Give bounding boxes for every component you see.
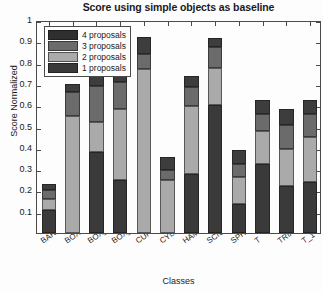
bar-stack [255, 21, 270, 233]
bar-segment [137, 37, 152, 54]
y-tick-label: 0.3 [4, 164, 32, 174]
legend-item[interactable]: 3 proposals [48, 41, 126, 51]
bar-segment [42, 199, 57, 210]
chart-legend: 4 proposals3 proposals2 proposals1 propo… [44, 26, 131, 77]
y-tick-mark [37, 86, 41, 87]
bar-segment [208, 47, 223, 68]
bar-segment [184, 76, 199, 87]
bar-segment [303, 100, 318, 114]
legend-swatch-icon [48, 30, 78, 40]
bar-segment [42, 210, 57, 233]
bar-segment [137, 54, 152, 69]
bar-stack [184, 21, 199, 233]
legend-item[interactable]: 2 proposals [48, 52, 126, 62]
y-tick-label: 0.7 [4, 79, 32, 89]
legend-swatch-icon [48, 63, 78, 73]
legend-label: 4 proposals [82, 30, 126, 40]
bar-segment [279, 186, 294, 233]
bar-segment [208, 105, 223, 233]
legend-label: 1 proposals [82, 63, 126, 73]
y-tick-mark [37, 65, 41, 66]
bar-stack [208, 21, 223, 233]
bar-stack [303, 21, 318, 233]
y-tick-label: 0.6 [4, 100, 32, 110]
bar-segment [232, 164, 247, 177]
bar-segment [279, 109, 294, 125]
plot-area: 4 proposals3 proposals2 proposals1 propo… [36, 21, 321, 234]
y-tick-label: 0.4 [4, 143, 32, 153]
bar-segment [89, 86, 104, 122]
legend-item[interactable]: 1 proposals [48, 63, 126, 73]
y-tick-mark [37, 214, 41, 215]
bar-segment [232, 204, 247, 233]
y-tick-label: 1 [4, 15, 32, 25]
bar-segment [65, 116, 80, 233]
y-tick-label: 0.2 [4, 185, 32, 195]
legend-swatch-icon [48, 52, 78, 62]
y-tick-mark [37, 129, 41, 130]
bar-segment [279, 125, 294, 148]
legend-label: 2 proposals [82, 52, 126, 62]
legend-swatch-icon [48, 41, 78, 51]
bar-segment [208, 38, 223, 47]
bar-segment [160, 170, 175, 180]
bar-segment [184, 174, 199, 233]
bar-segment [184, 106, 199, 174]
bar-segment [113, 180, 128, 233]
bar-segment [160, 157, 175, 170]
y-tick-mark [37, 107, 41, 108]
legend-label: 3 proposals [82, 41, 126, 51]
y-tick-label: 0.9 [4, 36, 32, 46]
y-tick-mark [37, 22, 41, 23]
bar-segment [113, 82, 128, 110]
bar-segment [65, 84, 80, 93]
y-tick-mark [37, 150, 41, 151]
y-tick-mark [37, 43, 41, 44]
legend-item[interactable]: 4 proposals [48, 30, 126, 40]
bar-segment [208, 68, 223, 105]
bar-segment [137, 69, 152, 233]
bar-segment [184, 87, 199, 106]
bar-segment [42, 184, 57, 190]
y-tick-mark [37, 171, 41, 172]
bar-segment [89, 152, 104, 233]
bar-segment [42, 190, 57, 199]
bar-segment [255, 131, 270, 164]
bar-segment [65, 92, 80, 115]
bar-stack [279, 21, 294, 233]
bar-segment [255, 164, 270, 233]
bar-stack [232, 21, 247, 233]
bar-segment [113, 109, 128, 179]
bar-segment [303, 182, 318, 233]
y-tick-label: 0.8 [4, 58, 32, 68]
x-tick-label: T [253, 235, 262, 245]
bar-stack [137, 21, 152, 233]
bar-stack [160, 21, 175, 233]
bar-segment [232, 150, 247, 164]
x-axis-title: Classes [36, 276, 321, 286]
y-tick-label: 0.5 [4, 122, 32, 132]
chart-title: Score using simple objects as baseline [36, 1, 321, 13]
chart-figure: Score using simple objects as baseline S… [0, 0, 323, 293]
bar-segment [279, 149, 294, 186]
bar-segment [160, 180, 175, 233]
bar-segment [255, 114, 270, 131]
bar-segment [89, 122, 104, 152]
bar-segment [255, 100, 270, 114]
bar-segment [303, 137, 318, 182]
bar-segment [232, 177, 247, 205]
y-tick-label: 0.1 [4, 207, 32, 217]
bar-segment [303, 114, 318, 137]
y-tick-mark [37, 192, 41, 193]
